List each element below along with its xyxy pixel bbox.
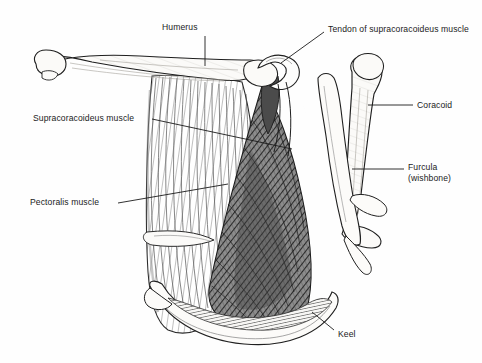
label-tendon-of-supracoracoideus-muscle: Tendon of supracoracoideus muscle [328,24,478,35]
label-supracoracoideus-muscle: Supracoracoideus muscle [33,113,134,124]
figure-canvas: Humerus Tendon of supracoracoideus muscl… [0,0,482,363]
label-keel: Keel [338,329,356,340]
label-humerus: Humerus [162,22,198,33]
leader-tendon-of-supracoracoideus-muscle [281,32,324,63]
label-furcula-wishbone: Furcula (wishbone) [408,162,474,184]
label-pectoralis-muscle: Pectoralis muscle [30,197,99,208]
label-coracoid: Coracoid [417,100,452,111]
